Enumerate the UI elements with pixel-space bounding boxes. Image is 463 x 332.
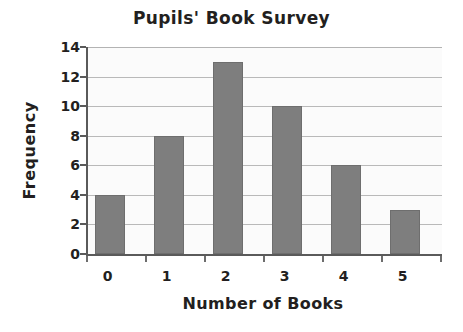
x-axis-tick-label: 5 <box>383 268 423 284</box>
y-axis-tick-label: 4 <box>54 187 80 203</box>
x-axis-tick-mark <box>440 256 442 262</box>
y-axis-tick-label: 14 <box>54 39 80 55</box>
gridline <box>88 136 442 137</box>
x-axis-tick-mark <box>263 256 265 262</box>
bar <box>154 136 184 254</box>
plot-area <box>86 47 442 256</box>
x-axis-tick-label: 4 <box>324 268 364 284</box>
bar <box>331 165 361 254</box>
x-axis-tick-mark <box>204 256 206 262</box>
x-axis-title: Number of Books <box>86 294 440 313</box>
gridline <box>88 47 442 48</box>
x-axis-tick-label: 3 <box>265 268 305 284</box>
bar-chart-figure: Pupils' Book Survey Frequency 0246810121… <box>0 0 463 332</box>
x-axis-tick-label: 2 <box>206 268 246 284</box>
gridline <box>88 77 442 78</box>
x-axis-tick-label: 0 <box>88 268 128 284</box>
x-axis-tick-label: 1 <box>147 268 187 284</box>
y-axis-tick-label: 2 <box>54 216 80 232</box>
y-axis-title: Frequency <box>14 47 44 254</box>
y-axis-tick-label: 0 <box>54 246 80 262</box>
y-axis-tick-label: 10 <box>54 98 80 114</box>
y-axis-tick-label: 12 <box>54 69 80 85</box>
x-axis-tick-marks <box>86 256 440 263</box>
y-axis-tick-label: 8 <box>54 128 80 144</box>
y-axis-tick-labels: 02468101214 <box>50 47 80 254</box>
y-axis-title-text: Frequency <box>20 101 39 199</box>
x-axis-tick-labels: 012345 <box>86 268 440 290</box>
y-axis-tick-label: 6 <box>54 157 80 173</box>
gridline <box>88 106 442 107</box>
gridline <box>88 195 442 196</box>
bar <box>95 195 125 254</box>
plot-inner <box>88 47 442 254</box>
bar <box>390 210 420 254</box>
x-axis-tick-mark <box>381 256 383 262</box>
x-axis-tick-mark <box>322 256 324 262</box>
x-axis-tick-mark <box>86 256 88 262</box>
x-axis-tick-mark <box>145 256 147 262</box>
chart-title: Pupils' Book Survey <box>0 8 463 28</box>
gridline <box>88 165 442 166</box>
bar <box>213 62 243 254</box>
bar <box>272 106 302 254</box>
